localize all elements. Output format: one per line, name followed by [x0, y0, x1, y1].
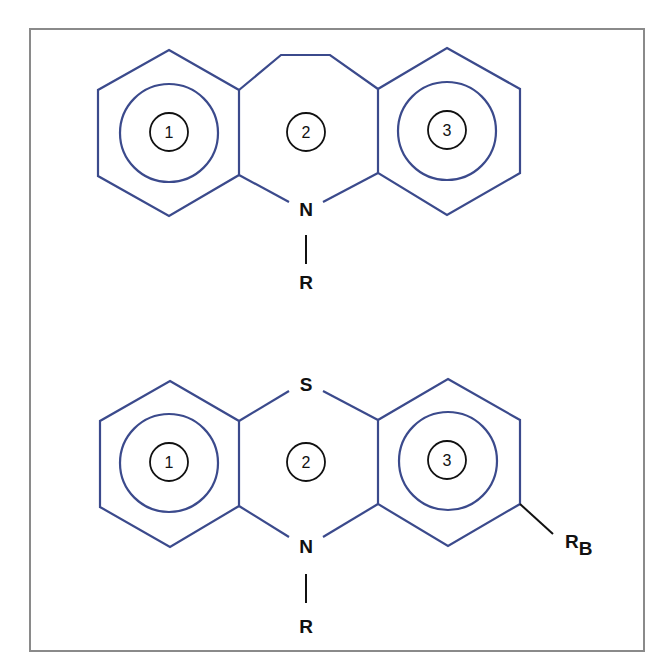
bottom-bond-ring1-s — [239, 391, 289, 421]
top-ethylene-bridge — [239, 55, 378, 90]
bottom-nitrogen-atom: N — [299, 536, 313, 557]
bottom-sulfur-atom: S — [300, 374, 313, 395]
structure-top: 1 2 3 N R — [98, 48, 520, 293]
top-ring-1-label: 1 — [165, 124, 174, 141]
chemical-structure-diagram: 1 2 3 N R 1 S 2 3 RB N R — [0, 0, 658, 668]
top-ring-2-label: 2 — [302, 124, 311, 141]
bottom-ring-3-label: 3 — [443, 452, 452, 469]
bottom-ring-1-label: 1 — [165, 454, 174, 471]
top-r-group: R — [299, 272, 313, 293]
top-bond-ring1-n — [239, 175, 289, 202]
top-nitrogen-atom: N — [299, 199, 313, 220]
top-ring-3-label: 3 — [443, 122, 452, 139]
structure-bottom: 1 S 2 3 RB N R — [100, 374, 592, 637]
bottom-ring3-rb-bond — [520, 504, 553, 534]
bottom-rb-group: RB — [565, 531, 592, 559]
top-bond-n-ring3 — [323, 173, 378, 202]
bottom-ring-2-label: 2 — [302, 454, 311, 471]
bottom-bond-s-ring3 — [323, 391, 378, 420]
bottom-r-group: R — [299, 616, 313, 637]
bottom-bond-ring1-n — [239, 506, 289, 537]
bottom-bond-n-ring3 — [323, 504, 378, 537]
